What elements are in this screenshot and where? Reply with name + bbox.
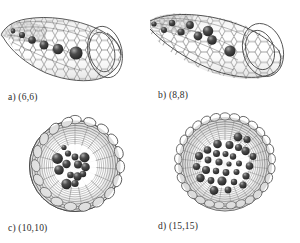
nanotube-illustration-a bbox=[0, 2, 150, 90]
nanotube-illustration-b bbox=[150, 0, 300, 88]
panel-nanotube-d: d) (15,15) bbox=[150, 108, 300, 243]
panel-caption-b: b) (8,8) bbox=[158, 91, 188, 101]
panel-nanotube-a: a) (6,6) bbox=[0, 2, 150, 110]
nanotube-illustration-c bbox=[0, 110, 150, 222]
figure-root: a) (6,6) bbox=[0, 0, 300, 243]
panel-caption-c: c) (10,10) bbox=[8, 224, 47, 234]
panel-nanotube-b: b) (8,8) bbox=[150, 0, 300, 108]
panel-nanotube-c: c) (10,10) bbox=[0, 110, 150, 243]
panel-caption-d: d) (15,15) bbox=[158, 222, 198, 232]
panel-caption-a: a) (6,6) bbox=[8, 93, 38, 103]
nanotube-illustration-d bbox=[150, 108, 300, 220]
